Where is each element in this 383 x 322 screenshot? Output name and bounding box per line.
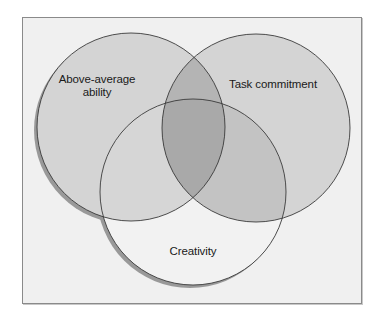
label-creativity: Creativity [170,245,217,257]
venn-diagram: Above-average ability Task commitment Cr… [0,0,383,322]
label-ability-line2: ability [83,86,112,98]
label-task-commitment: Task commitment [229,78,318,90]
label-ability-line1: Above-average [59,73,136,85]
